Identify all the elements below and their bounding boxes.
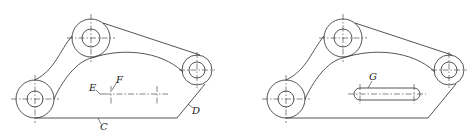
drawing-canvas: E F C D G (0, 0, 469, 132)
left-outer-contour (35, 23, 205, 118)
right-centerlines (262, 14, 467, 123)
right-part-drawing: G (262, 14, 467, 123)
label-C: C (100, 121, 108, 132)
left-part-drawing: E F C D (11, 14, 215, 132)
label-D: D (191, 105, 200, 116)
leader-E (96, 90, 105, 94)
label-F: F (115, 74, 124, 85)
left-centerlines (11, 14, 215, 123)
label-E: E (88, 82, 97, 93)
leader-G (368, 81, 372, 88)
label-G: G (369, 71, 377, 82)
